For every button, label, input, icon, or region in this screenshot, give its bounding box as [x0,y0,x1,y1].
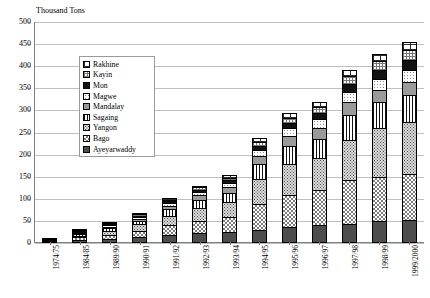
bar-segment-ayeyarwaddy[interactable] [312,225,327,243]
legend-item[interactable]: Bago [83,133,151,144]
bar-segment-rakhine[interactable] [372,54,387,61]
bar-segment-sagaing[interactable] [342,115,357,140]
bar-segment-magwe[interactable] [402,70,417,82]
bar-segment-bago[interactable] [162,225,177,235]
bar-segment-sagaing[interactable] [222,193,237,203]
bar-segment-ayeyarwaddy[interactable] [342,224,357,243]
bar-stack [102,222,117,243]
bar-segment-magwe[interactable] [282,128,297,136]
bar-column[interactable] [312,22,327,243]
legend-item[interactable]: Kayin [83,70,151,81]
bar-segment-bago[interactable] [222,217,237,232]
bar-segment-yangon[interactable] [222,202,237,217]
bar-column[interactable] [402,22,417,243]
y-axis-tick-label: 0 [1,239,31,247]
bar-segment-yangon[interactable] [192,208,207,221]
bar-column[interactable] [282,22,297,243]
bar-segment-mon[interactable] [342,84,357,92]
legend-item-label: Yangon [93,123,117,132]
bar-segment-ayeyarwaddy[interactable] [282,227,297,243]
bar-segment-mandalay[interactable] [372,90,387,102]
x-axis-tick-label: 1990/91 [143,245,151,270]
legend-item-label: Mon [93,81,108,90]
x-axis-tick-label: 1995/96 [292,245,300,270]
bar-segment-sagaing[interactable] [282,146,297,165]
y-axis-tick-mark [28,66,31,67]
y-axis-tick-label: 500 [1,18,31,26]
bar-segment-kayin[interactable] [402,50,417,60]
bar-column[interactable] [192,22,207,243]
legend-swatch-icon [83,146,90,153]
bar-segment-bago[interactable] [342,180,357,223]
bar-segment-mon[interactable] [372,70,387,79]
legend-swatch-icon [83,93,90,100]
bar-segment-kayin[interactable] [372,61,387,70]
legend-item[interactable]: Yangon [83,123,151,134]
bar-column[interactable] [372,22,387,243]
bar-segment-sagaing[interactable] [372,102,387,128]
legend-item[interactable]: Sagaing [83,112,151,123]
bar-segment-rakhine[interactable] [402,42,417,50]
bar-stack [192,186,207,243]
bar-segment-mandalay[interactable] [282,136,297,146]
y-axis-tick-mark [28,199,31,200]
y-axis-tick-label: 400 [1,62,31,70]
bar-segment-ayeyarwaddy[interactable] [372,221,387,243]
bar-column[interactable] [252,22,267,243]
bar-segment-bago[interactable] [282,195,297,227]
bar-segment-mandalay[interactable] [402,82,417,95]
bar-segment-kayin[interactable] [342,76,357,84]
bar-segment-sagaing[interactable] [252,164,267,179]
legend-item[interactable]: Ayeyarwaddy [83,144,151,155]
legend-item[interactable]: Mandalay [83,101,151,112]
y-axis-tick-mark [28,110,31,111]
bar-segment-sagaing[interactable] [192,200,207,208]
bar-segment-sagaing[interactable] [402,95,417,122]
bar-segment-yangon[interactable] [162,216,177,226]
bar-column[interactable] [162,22,177,243]
bar-column[interactable] [342,22,357,243]
legend-item[interactable]: Magwe [83,91,151,102]
bar-segment-yangon[interactable] [402,122,417,174]
bar-segment-yangon[interactable] [282,164,297,195]
y-axis-tick-mark [28,155,31,156]
bar-segment-mandalay[interactable] [342,102,357,114]
bar-segment-mon[interactable] [402,60,417,70]
legend-item[interactable]: Mon [83,80,151,91]
chart-legend: RakhineKayinMonMagweMandalaySagaingYango… [79,56,155,157]
bar-segment-yangon[interactable] [252,179,267,204]
bar-segment-bago[interactable] [192,221,207,233]
bar-column[interactable] [42,22,57,243]
x-axis-tick-mark [379,242,380,245]
bar-segment-yangon[interactable] [342,140,357,181]
bar-stack [372,54,387,243]
bar-segment-sagaing[interactable] [312,139,327,158]
bar-stack [252,138,267,243]
bar-segment-mandalay[interactable] [312,128,327,139]
legend-item[interactable]: Rakhine [83,59,151,70]
bar-segment-bago[interactable] [252,204,267,230]
y-axis-tick-mark [28,221,31,222]
bar-segment-yangon[interactable] [372,128,387,177]
y-axis-tick-mark [28,88,31,89]
y-axis-tick-label: 150 [1,173,31,181]
bar-segment-bago[interactable] [402,174,417,220]
bar-segment-yangon[interactable] [312,158,327,190]
legend-swatch-icon [83,61,90,68]
bar-column[interactable] [222,22,237,243]
bar-segment-mandalay[interactable] [252,156,267,164]
bar-segment-ayeyarwaddy[interactable] [252,230,267,243]
y-axis-unit-title: Thousand Tons [36,6,85,16]
y-axis-tick-mark [28,22,31,23]
bar-segment-bago[interactable] [372,177,387,221]
bar-segment-magwe[interactable] [312,119,327,128]
bar-segment-magwe[interactable] [372,79,387,90]
y-axis-tick-label: 350 [1,84,31,92]
bar-stack [72,229,87,243]
legend-swatch-icon [83,103,90,110]
bar-segment-magwe[interactable] [342,92,357,103]
bar-segment-ayeyarwaddy[interactable] [402,220,417,243]
bar-segment-bago[interactable] [312,190,327,225]
legend-item-label: Kayin [93,70,112,79]
y-axis-tick-mark [28,44,31,45]
